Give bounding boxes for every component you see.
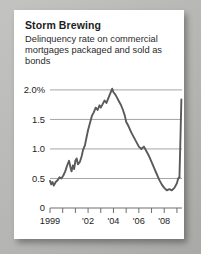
x-axis-tick-label: '06 [133,216,145,226]
x-axis-tick-label: 1999 [40,216,60,226]
data-series-line [50,89,179,191]
y-axis-tick-label: 2.0% [24,84,45,95]
y-axis-tick-label: 0.5 [32,173,45,184]
chart-card: Storm Brewing Delinquency rate on commer… [14,10,184,239]
data-series-group [50,89,181,191]
x-axis [50,208,182,213]
x-axis-tick-label: '02 [82,216,94,226]
page-title: Storm Brewing [25,19,176,31]
figure-root: Storm Brewing Delinquency rate on commer… [0,0,201,254]
x-axis-tick-label: '04 [107,216,119,226]
y-axis-tick-label: 1.5 [32,114,45,125]
chart-card-inner: Storm Brewing Delinquency rate on commer… [14,10,184,239]
x-axis-tick-labels: 1999'02'04'06'08 [40,216,170,226]
x-axis-tick-label: '08 [158,216,170,226]
y-axis-tick-label: 1.0 [32,143,45,154]
y-axis-tick-labels: 2.0%1.51.00.50 [24,84,45,213]
chart-subtitle: Delinquency rate on commercial mortgages… [25,34,175,68]
y-axis-tick-label: 0 [40,202,45,213]
line-chart-svg: 2.0%1.51.00.50 1999'02'04'06'08 [14,78,184,238]
data-series-line [179,99,181,177]
plot-area: 2.0%1.51.00.50 1999'02'04'06'08 [14,78,184,238]
